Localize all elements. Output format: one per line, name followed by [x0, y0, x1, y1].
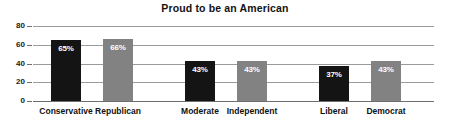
- bar-value-republican: 66%: [103, 43, 133, 52]
- y-axis-tick-40: 40: [0, 60, 25, 68]
- x-axis-label-democrat: Democrat: [366, 106, 405, 116]
- y-axis-tick-60: 60: [0, 41, 25, 49]
- gridline-60: [33, 45, 434, 46]
- bar-value-moderate: 43%: [185, 65, 215, 74]
- y-axis-dash-60: [27, 45, 32, 46]
- bar-liberal: 37%: [319, 66, 349, 101]
- gridline-80: [33, 26, 434, 27]
- bar-moderate: 43%: [185, 61, 215, 101]
- x-axis-label-conservative: Conservative: [39, 106, 92, 116]
- bar-independent: 43%: [237, 61, 267, 101]
- y-axis-dash-80: [27, 26, 32, 27]
- bar-democrat: 43%: [371, 61, 401, 101]
- x-axis-label-moderate: Moderate: [181, 106, 219, 116]
- y-axis-dash-0: [27, 101, 32, 102]
- bar-value-democrat: 43%: [371, 65, 401, 74]
- y-axis-dash-40: [27, 64, 32, 65]
- plot-area: 65% 66% 43% 43% 37% 43%: [33, 26, 434, 101]
- bar-republican: 66%: [103, 39, 133, 101]
- bar-conservative: 65%: [51, 40, 81, 101]
- bar-value-independent: 43%: [237, 65, 267, 74]
- y-axis-tick-0: 0: [0, 97, 25, 105]
- bar-value-liberal: 37%: [319, 70, 349, 79]
- y-axis-dash-20: [27, 82, 32, 83]
- x-axis-label-independent: Independent: [227, 106, 278, 116]
- x-axis-baseline: [33, 101, 434, 102]
- y-axis-tick-80: 80: [0, 22, 25, 30]
- x-axis-label-liberal: Liberal: [320, 106, 348, 116]
- bar-chart: Proud to be an American 80 60 40 20 0 65…: [0, 0, 450, 133]
- chart-title: Proud to be an American: [0, 2, 450, 14]
- x-axis-label-republican: Republican: [95, 106, 141, 116]
- y-axis-tick-20: 20: [0, 78, 25, 86]
- bar-value-conservative: 65%: [51, 44, 81, 53]
